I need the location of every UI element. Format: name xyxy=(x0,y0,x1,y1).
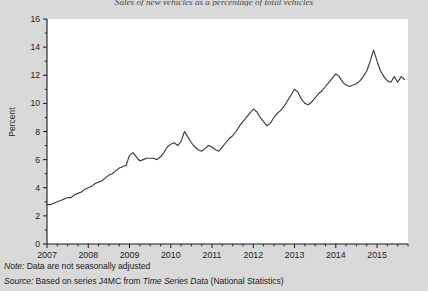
source-text-trailing: (National Statistics) xyxy=(208,276,283,286)
x-tick-label: 2012 xyxy=(243,250,263,258)
x-axis-labels: 200720082009201020112012201320142015 xyxy=(37,250,387,258)
plot-background xyxy=(47,19,408,244)
x-tick-label: 2013 xyxy=(285,250,305,258)
note-line: Note: Data are not seasonally adjusted xyxy=(4,261,150,271)
note-label: Note: xyxy=(4,261,24,271)
x-tick-label: 2011 xyxy=(203,250,222,258)
source-label: Source: xyxy=(4,276,33,286)
y-tick-label: 16 xyxy=(30,14,40,24)
x-tick-label: 2015 xyxy=(367,250,387,258)
y-axis-labels: 0246810121416 xyxy=(30,14,40,249)
x-tick-label: 2014 xyxy=(326,250,346,258)
y-tick-label: 6 xyxy=(35,155,40,165)
source-line: Source: Based on series J4MC from Time S… xyxy=(4,276,284,286)
x-tick-label: 2009 xyxy=(120,250,140,258)
y-axis-ticks xyxy=(43,19,47,244)
y-tick-label: 2 xyxy=(35,211,40,221)
x-axis-ticks xyxy=(47,244,408,248)
x-tick-label: 2010 xyxy=(161,250,181,258)
y-tick-label: 12 xyxy=(30,70,40,80)
note-text: Data are not seasonally adjusted xyxy=(24,261,150,271)
y-axis-title: Percent xyxy=(7,92,17,152)
y-tick-label: 14 xyxy=(30,42,40,52)
y-tick-label: 0 xyxy=(35,239,40,249)
y-tick-label: 10 xyxy=(30,98,40,108)
x-tick-label: 2007 xyxy=(37,250,57,258)
source-series-name: Time Series Data xyxy=(143,276,209,286)
source-text-leading: Based on series J4MC from xyxy=(33,276,142,286)
y-tick-label: 4 xyxy=(35,183,40,193)
figure-container: Sales of new vehicles as a percentage of… xyxy=(0,0,428,291)
y-tick-label: 8 xyxy=(35,127,40,137)
chart-plot-area: 0246810121416 20072008200920102011201220… xyxy=(0,0,428,258)
x-tick-label: 2008 xyxy=(78,250,98,258)
